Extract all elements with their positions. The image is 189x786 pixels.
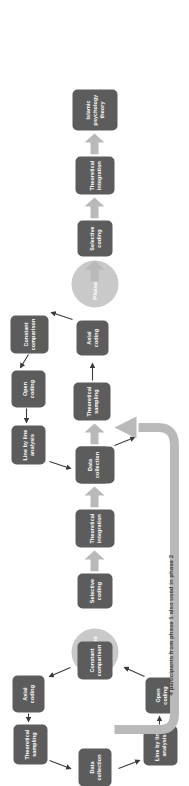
node-label: Theoretical sampling	[23, 726, 37, 762]
arrow-p1-theoretical-to-data	[45, 756, 75, 772]
node-label: Data collection	[88, 750, 102, 784]
node-p1-theoretical-sampling[interactable]: Theoretical sampling	[13, 724, 47, 764]
arrow-theoretical2-to-islamic-theory	[82, 132, 106, 154]
arrow-p2-line-to-data	[45, 456, 75, 472]
arrow-p2-axial-to-constant	[46, 307, 76, 323]
node-label: Theoretical integration	[88, 511, 102, 545]
node-label: Line by line analysis	[21, 427, 35, 462]
arrow-selective1-to-theoretical1	[82, 549, 106, 571]
arrow-p1-data-to-line	[114, 756, 144, 772]
node-label: Constant comparison	[88, 643, 102, 677]
participants-loop-caption: 4 participants from phase 1 also used in…	[166, 554, 173, 695]
arrow-p1-constant-to-axial	[44, 663, 74, 679]
node-theoretical-integration-2[interactable]: Theoretical integration	[75, 156, 114, 194]
node-p1-axial-coding[interactable]: Axial coding	[12, 675, 44, 712]
arrow-p2-open-to-line	[20, 405, 34, 425]
node-islamic-psychology-theory[interactable]: Islamic psychology theory	[72, 89, 117, 130]
node-p2-line-by-line-analysis[interactable]: Line by line analysis	[11, 425, 45, 464]
node-p2-open-coding[interactable]: Open coding	[11, 370, 45, 407]
node-p2-axial-coding[interactable]: Axial coding	[76, 320, 108, 355]
arrow-p2-constant-to-open	[18, 351, 32, 371]
node-label: Theoretical integration	[88, 158, 102, 192]
arrow-phase-two-to-selective2	[82, 259, 106, 281]
node-label: Data collection	[86, 448, 100, 481]
node-label: Selective coding	[88, 575, 102, 606]
node-label: Axial coding	[21, 677, 35, 710]
participants-loop-arrow	[108, 400, 186, 745]
node-label: Selective coding	[88, 222, 102, 254]
node-label: Theoretical sampling	[85, 384, 99, 418]
node-label: Open coding	[21, 372, 35, 405]
node-p2-theoretical-sampling[interactable]: Theoretical sampling	[73, 382, 110, 420]
arrow-selective2-to-theoretical2	[82, 196, 106, 218]
arrow-p1-axial-to-theoretical	[21, 711, 35, 725]
node-label: Islamic psychology theory	[84, 91, 104, 128]
node-label: Constant comparison	[22, 317, 36, 351]
arrow-model-to-phase-two-sampling	[82, 422, 106, 444]
arrow-theoretical1-to-model	[82, 485, 106, 507]
arrow-p2-sampling-to-axial	[85, 357, 99, 381]
node-label: Axial coding	[85, 322, 99, 353]
node-p2-data-collection[interactable]: Data collection	[76, 446, 109, 483]
node-selective-coding-1[interactable]: Selective coding	[77, 573, 112, 608]
node-p2-constant-comparison[interactable]: Constant comparison	[10, 315, 48, 353]
node-p1-constant-comparison[interactable]: Constant comparison	[77, 641, 112, 679]
node-selective-coding-2[interactable]: Selective coding	[77, 220, 112, 256]
node-p1-data-collection[interactable]: Data collection	[78, 748, 111, 786]
